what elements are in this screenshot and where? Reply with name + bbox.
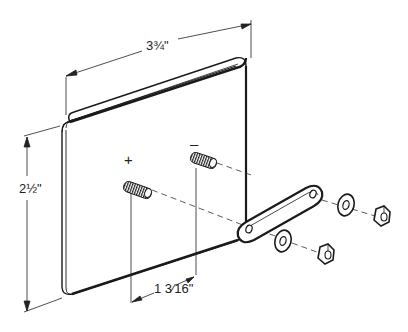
positive-terminal-label: + xyxy=(124,151,133,168)
washer xyxy=(335,192,356,217)
hex-nut xyxy=(374,206,390,226)
hex-nut xyxy=(318,244,334,264)
width-dimension-label: 3¾" xyxy=(146,38,169,53)
height-dimension-label: 2½" xyxy=(19,181,42,196)
height-dimension xyxy=(24,126,62,312)
negative-terminal-label: – xyxy=(190,135,199,152)
washer xyxy=(272,228,293,253)
exploded-plate-drawing: 3¾" 2½" + – 1 3⁄16" xyxy=(0,0,408,332)
terminal-spacing-label: 1 3⁄16" xyxy=(154,281,194,296)
plate xyxy=(62,58,246,295)
